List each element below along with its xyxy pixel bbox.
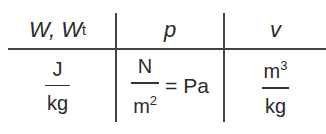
header-work: W, Wt xyxy=(0,16,115,44)
fraction-bar xyxy=(131,82,159,84)
exponent: 3 xyxy=(280,58,287,73)
numerator: m3 xyxy=(262,53,290,84)
header-pressure-symbol: p xyxy=(164,17,176,43)
unit-pressure: N m2 = Pa xyxy=(117,52,223,120)
numerator-base: m xyxy=(264,60,281,82)
header-work-symbol: W, W xyxy=(29,17,82,43)
denominator-base: m xyxy=(133,95,150,117)
fraction-bar xyxy=(262,87,290,89)
header-volume-symbol: v xyxy=(270,17,281,43)
header-pressure: p xyxy=(117,16,223,44)
fraction: J kg xyxy=(45,56,70,117)
header-work-subscript: t xyxy=(82,22,86,38)
unit-specific-volume: m3 kg xyxy=(225,52,326,120)
fraction: m3 kg xyxy=(262,53,290,119)
fraction-bar xyxy=(45,85,70,87)
unit-work: J kg xyxy=(0,52,115,120)
denominator: m2 xyxy=(131,88,159,119)
exponent: 2 xyxy=(150,93,157,108)
denominator: kg xyxy=(45,90,70,116)
denominator: kg xyxy=(263,93,288,119)
fraction: N m2 xyxy=(131,53,159,119)
numerator: N xyxy=(136,53,154,79)
equals-pascal: = Pa xyxy=(165,74,209,98)
header-divider xyxy=(8,48,326,50)
header-specific-volume: v xyxy=(225,16,326,44)
numerator: J xyxy=(51,56,65,82)
